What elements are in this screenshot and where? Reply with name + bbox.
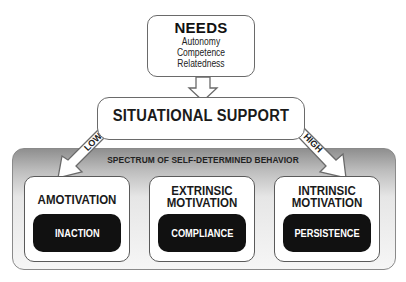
extrinsic-motivation-box: EXTRINSIC MOTIVATION COMPLIANCE bbox=[149, 176, 255, 262]
intrinsic-title-line2: MOTIVATION bbox=[279, 197, 375, 209]
inaction-pill: INACTION bbox=[33, 214, 121, 252]
extrinsic-title-line2: MOTIVATION bbox=[154, 197, 250, 209]
compliance-pill: COMPLIANCE bbox=[158, 214, 246, 252]
inaction-label: INACTION bbox=[55, 227, 100, 239]
needs-box: NEEDS Autonomy Competence Relatedness bbox=[147, 15, 255, 77]
situational-support-box: SITUATIONAL SUPPORT bbox=[97, 97, 305, 140]
compliance-label: COMPLIANCE bbox=[171, 227, 233, 239]
amotivation-title: AMOTIVATION bbox=[29, 194, 125, 206]
need-item-autonomy: Autonomy bbox=[156, 36, 246, 47]
persistence-label: PERSISTENCE bbox=[294, 227, 359, 239]
situational-support-title: SITUATIONAL SUPPORT bbox=[106, 107, 296, 125]
persistence-pill: PERSISTENCE bbox=[283, 214, 371, 252]
intrinsic-motivation-box: INTRINSIC MOTIVATION PERSISTENCE bbox=[274, 176, 380, 262]
needs-title: NEEDS bbox=[148, 19, 254, 36]
amotivation-box: AMOTIVATION INACTION bbox=[24, 176, 130, 262]
need-item-relatedness: Relatedness bbox=[156, 58, 246, 69]
need-item-competence: Competence bbox=[156, 47, 246, 58]
